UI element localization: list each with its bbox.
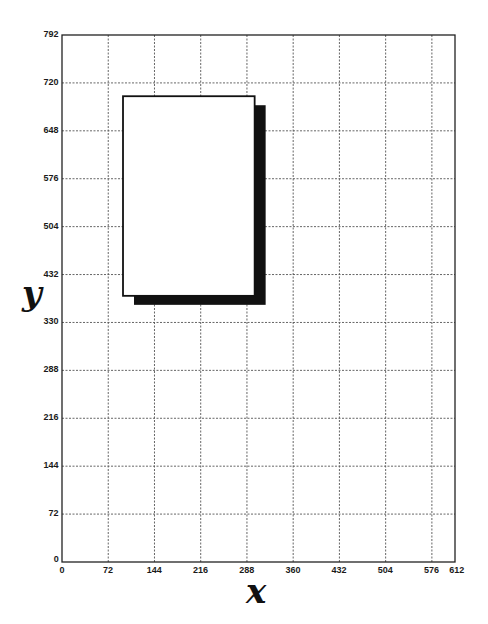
x-tick-label: 612 [449, 566, 464, 575]
y-tick-label: 576 [43, 174, 58, 183]
y-tick-label: 144 [43, 461, 58, 470]
y-tick-label: 216 [43, 413, 58, 422]
x-tick-label: 504 [378, 566, 393, 575]
y-tick-label: 288 [43, 365, 58, 374]
y-tick-label: 72 [49, 509, 59, 518]
x-tick-label: 360 [285, 566, 300, 575]
y-tick-label: 330 [43, 317, 58, 326]
coordinate-diagram: 072144216288360432504576612 072144216288… [0, 0, 488, 624]
y-axis-title: y [22, 276, 42, 310]
y-tick-label: 0 [54, 555, 59, 564]
plot-area [0, 0, 488, 624]
y-tick-label: 648 [43, 126, 58, 135]
x-tick-label: 432 [332, 566, 347, 575]
page-box [123, 96, 255, 296]
x-tick-label: 576 [424, 566, 439, 575]
y-tick-label: 720 [43, 78, 58, 87]
y-tick-label: 432 [43, 270, 58, 279]
x-axis-title: x [246, 574, 266, 608]
x-tick-label: 72 [103, 566, 113, 575]
y-tick-label: 792 [43, 30, 58, 39]
y-tick-label: 504 [43, 222, 58, 231]
x-tick-label: 216 [193, 566, 208, 575]
x-tick-label: 0 [60, 566, 65, 575]
x-tick-label: 144 [147, 566, 162, 575]
